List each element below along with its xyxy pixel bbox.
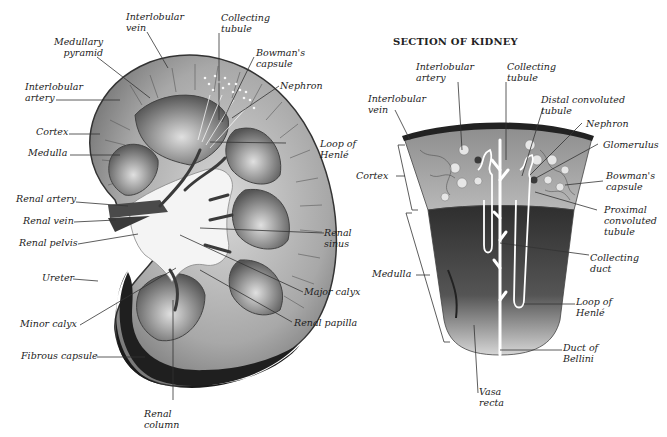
label-line: Henlé bbox=[320, 149, 356, 160]
label-medullary-pyramid: Medullary pyramid bbox=[54, 36, 103, 58]
label-renal-pelvis: Renal pelvis bbox=[19, 237, 78, 248]
label-line: Renal bbox=[324, 227, 352, 238]
section-title: SECTION OF KIDNEY bbox=[393, 36, 518, 47]
label-line: Interlobular bbox=[126, 11, 184, 22]
label-bowmans-capsule: Bowman's capsule bbox=[256, 47, 305, 69]
label-line: Duct of bbox=[563, 342, 598, 353]
label-line: vein bbox=[368, 104, 426, 115]
label-loop-of-henle: Loop of Henlé bbox=[320, 138, 356, 160]
label-distal-convoluted-tubule: Distal convoluted tubule bbox=[541, 94, 625, 116]
label-line: Bowman's bbox=[256, 47, 305, 58]
label-renal-sinus: Renal sinus bbox=[324, 227, 352, 249]
label-line: Bellini bbox=[563, 353, 598, 364]
label-line: duct bbox=[590, 263, 639, 274]
label-line: tubule bbox=[541, 105, 625, 116]
label-cortex: Cortex bbox=[36, 126, 68, 137]
kidney-section-wedge bbox=[402, 123, 594, 356]
label-duct-of-bellini: Duct of Bellini bbox=[563, 342, 598, 364]
label-line: capsule bbox=[606, 181, 655, 192]
label-collecting-duct: Collecting duct bbox=[590, 252, 639, 274]
label-line: Collecting bbox=[221, 12, 270, 23]
label-section-medulla: Medulla bbox=[372, 268, 411, 279]
label-major-calyx: Major calyx bbox=[304, 286, 360, 297]
label-medulla: Medulla bbox=[28, 147, 67, 158]
label-line: Renal bbox=[144, 408, 179, 419]
label-line: convoluted bbox=[604, 215, 657, 226]
label-line: vein bbox=[126, 22, 184, 33]
label-fibrous-capsule: Fibrous capsule bbox=[21, 350, 98, 361]
label-section-interlobular-artery: Interlobular artery bbox=[416, 61, 474, 83]
label-line: Proximal bbox=[604, 204, 657, 215]
label-vasa-recta: Vasa recta bbox=[479, 386, 504, 408]
kidney-illustration bbox=[0, 0, 667, 437]
label-section-bowmans-capsule: Bowman's capsule bbox=[606, 170, 655, 192]
label-interlobular-vein: Interlobular vein bbox=[126, 11, 184, 33]
label-line: Collecting bbox=[507, 61, 556, 72]
label-line: sinus bbox=[324, 238, 352, 249]
label-line: Vasa bbox=[479, 386, 504, 397]
label-interlobular-artery: Interlobular artery bbox=[25, 81, 83, 103]
label-line: artery bbox=[416, 72, 474, 83]
label-line: Interlobular bbox=[416, 61, 474, 72]
label-line: Medullary bbox=[54, 36, 103, 47]
label-line: Interlobular bbox=[368, 93, 426, 104]
label-glomerulus: Glomerulus bbox=[603, 139, 659, 150]
label-renal-artery: Renal artery bbox=[16, 193, 76, 204]
label-nephron: Nephron bbox=[280, 80, 323, 91]
label-line: Loop of bbox=[576, 296, 612, 307]
label-collecting-tubule: Collecting tubule bbox=[221, 12, 270, 34]
label-section-cortex: Cortex bbox=[356, 170, 388, 181]
label-line: tubule bbox=[221, 23, 270, 34]
label-line: pyramid bbox=[54, 47, 103, 58]
label-section-nephron: Nephron bbox=[586, 118, 629, 129]
label-section-interlobular-vein: Interlobular vein bbox=[368, 93, 426, 115]
label-line: recta bbox=[479, 397, 504, 408]
label-line: Interlobular bbox=[25, 81, 83, 92]
label-section-loop-of-henle: Loop of Henlé bbox=[576, 296, 612, 318]
label-line: Bowman's bbox=[606, 170, 655, 181]
label-line: capsule bbox=[256, 58, 305, 69]
label-line: tubule bbox=[507, 72, 556, 83]
label-renal-vein: Renal vein bbox=[23, 215, 74, 226]
label-line: tubule bbox=[604, 226, 657, 237]
label-line: Distal convoluted bbox=[541, 94, 625, 105]
label-line: column bbox=[144, 419, 179, 430]
kidney-cross-section bbox=[90, 55, 337, 388]
label-line: Collecting bbox=[590, 252, 639, 263]
label-line: Loop of bbox=[320, 138, 356, 149]
label-renal-column: Renal column bbox=[144, 408, 179, 430]
label-line: Henlé bbox=[576, 307, 612, 318]
label-proximal-convoluted-tubule: Proximal convoluted tubule bbox=[604, 204, 657, 237]
label-ureter: Ureter bbox=[42, 272, 74, 283]
label-renal-papilla: Renal papilla bbox=[294, 317, 357, 328]
label-minor-calyx: Minor calyx bbox=[20, 318, 77, 329]
label-line: artery bbox=[25, 92, 83, 103]
label-section-collecting-tubule: Collecting tubule bbox=[507, 61, 556, 83]
